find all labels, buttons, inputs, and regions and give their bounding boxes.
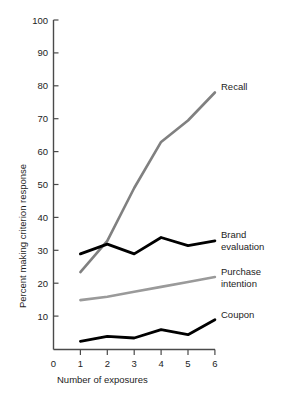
series-line-coupon [80, 320, 215, 342]
y-tick-label-10: 10 [37, 311, 48, 322]
y-tick-label-40: 40 [37, 212, 48, 223]
x-axis-title: Number of exposures [57, 374, 148, 385]
y-tick-label-100: 100 [32, 15, 48, 26]
y-tick-label-60: 60 [37, 146, 48, 157]
y-tick-label-70: 70 [37, 113, 48, 124]
x-tick-label-5: 5 [185, 358, 190, 369]
y-tick-label-50: 50 [37, 179, 48, 190]
series-label-coupon: Coupon [221, 309, 254, 320]
line-chart: 100 90 80 70 60 50 40 30 20 10 0 1 2 3 4… [0, 0, 306, 394]
x-tick-label-1: 1 [78, 358, 83, 369]
y-tick-label-90: 90 [37, 47, 48, 58]
y-axis-ticks [54, 20, 59, 316]
x-tick-label-6: 6 [212, 358, 217, 369]
x-axis-ticks [80, 350, 215, 356]
x-tick-label-4: 4 [158, 358, 163, 369]
series-label-recall: Recall [221, 81, 247, 92]
y-tick-label-80: 80 [37, 80, 48, 91]
series-line-brand-evaluation [80, 238, 215, 254]
y-axis-title: Percent making criterion response [17, 164, 28, 308]
series-line-purchase-intention [80, 277, 215, 300]
y-tick-label-30: 30 [37, 245, 48, 256]
series-label-brand-evaluation-line2: evaluation [221, 241, 264, 252]
x-tick-label-0: 0 [51, 358, 56, 369]
series-label-brand-evaluation-line1: Brand [221, 229, 246, 240]
series-label-purchase-intention-line2: intention [221, 278, 257, 289]
y-tick-label-20: 20 [37, 278, 48, 289]
x-tick-label-2: 2 [105, 358, 110, 369]
series-label-purchase-intention-line1: Purchase [221, 266, 261, 277]
chart-canvas: 100 90 80 70 60 50 40 30 20 10 0 1 2 3 4… [0, 0, 306, 394]
x-tick-label-3: 3 [132, 358, 137, 369]
